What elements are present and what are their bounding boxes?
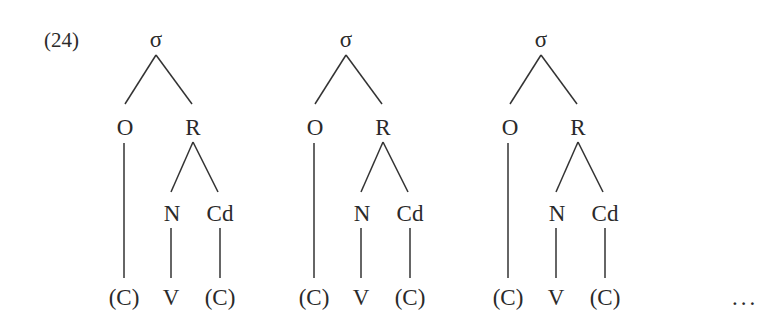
coda-node: Cd xyxy=(592,201,619,226)
edge-rhyme-coda xyxy=(383,142,408,192)
syllable-tree-2: σ O R N Cd (C) V (C) xyxy=(299,27,426,310)
rhyme-node: R xyxy=(185,115,201,140)
nucleus-node: N xyxy=(164,201,181,226)
coda-segment: (C) xyxy=(590,285,621,310)
root-node-sigma: σ xyxy=(340,27,353,52)
syllable-tree-3: σ O R N Cd (C) V (C) xyxy=(493,27,621,310)
nucleus-node: N xyxy=(549,201,566,226)
edge-rhyme-coda xyxy=(193,142,218,192)
coda-segment: (C) xyxy=(395,285,426,310)
onset-node: O xyxy=(117,115,134,140)
syllable-tree-1: σ O R N Cd (C) V (C) xyxy=(109,27,236,310)
edge-root-onset xyxy=(125,55,156,104)
root-node-sigma: σ xyxy=(535,27,548,52)
edge-root-onset xyxy=(510,55,541,104)
nucleus-segment: V xyxy=(163,285,180,310)
edge-root-rhyme xyxy=(156,55,192,104)
coda-node: Cd xyxy=(207,201,234,226)
example-number: (24) xyxy=(44,28,79,52)
syllable-structure-diagram: (24) σ O R N Cd (C) V (C) σ O R N Cd (C)… xyxy=(0,0,771,325)
onset-segment: (C) xyxy=(109,285,140,310)
rhyme-node: R xyxy=(375,115,391,140)
coda-segment: (C) xyxy=(205,285,236,310)
onset-node: O xyxy=(307,115,324,140)
edge-root-rhyme xyxy=(346,55,382,104)
edge-root-rhyme xyxy=(541,55,577,104)
edge-rhyme-coda xyxy=(578,142,603,192)
rhyme-node: R xyxy=(570,115,586,140)
root-node-sigma: σ xyxy=(150,27,163,52)
onset-segment: (C) xyxy=(493,285,524,310)
nucleus-node: N xyxy=(354,201,371,226)
nucleus-segment: V xyxy=(353,285,370,310)
nucleus-segment: V xyxy=(548,285,565,310)
edge-rhyme-nucleus xyxy=(361,142,383,192)
edge-rhyme-nucleus xyxy=(556,142,578,192)
continuation-ellipsis: ... xyxy=(732,285,758,310)
edge-rhyme-nucleus xyxy=(171,142,193,192)
coda-node: Cd xyxy=(397,201,424,226)
edge-root-onset xyxy=(315,55,346,104)
onset-node: O xyxy=(502,115,519,140)
onset-segment: (C) xyxy=(299,285,330,310)
